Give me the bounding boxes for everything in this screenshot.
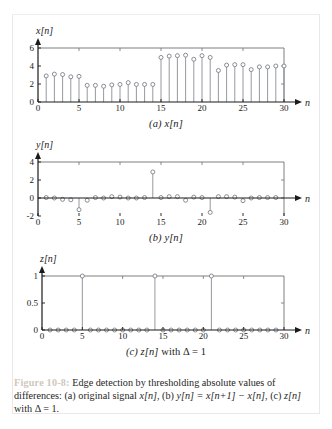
stem-marker [282, 64, 286, 68]
stem-marker [241, 63, 245, 67]
caption-text-3: , (c) [265, 390, 284, 401]
figure-container: 0510152025300246x[n]n (a) x[n] 051015202… [0, 0, 332, 429]
stem-marker [118, 82, 122, 86]
chart-y-n: 051015202530-2024y[n]n [16, 140, 316, 232]
xtick-label: 0 [36, 217, 41, 227]
y-axis-label: x[n] [35, 26, 53, 36]
stem-marker [134, 82, 138, 86]
xtick-label: 25 [239, 331, 249, 341]
stem-marker [167, 54, 171, 58]
stem-marker [52, 72, 56, 76]
stem-marker [184, 198, 188, 202]
stem-marker [77, 208, 81, 212]
ytick-label: 1 [34, 271, 39, 281]
stem-marker [233, 63, 237, 67]
stem-marker [274, 64, 278, 68]
stem-marker [77, 74, 81, 78]
stem-marker [44, 74, 48, 78]
ytick-label: 0 [34, 325, 39, 335]
x-axis-arrow [295, 195, 302, 201]
caption-equation-b: y[n] = x[n+1] − x[n] [177, 390, 266, 401]
x-axis-label: n [305, 325, 310, 336]
caption-text-2: , (b) [157, 390, 177, 401]
xtick-label: 0 [40, 331, 45, 341]
ytick-label: -2 [27, 211, 35, 221]
chart-x-n: 0510152025300246x[n]n [16, 26, 316, 118]
y-axis-label: z[n] [39, 254, 57, 264]
figure-number: Figure 10-8: [14, 377, 70, 388]
stem-marker [143, 82, 147, 86]
y-axis-arrow [35, 152, 41, 159]
plot-b-svg: 051015202530-2024y[n]n [16, 140, 316, 232]
stem-marker [153, 274, 157, 278]
stem-marker [209, 274, 213, 278]
stem-marker [80, 274, 84, 278]
subcaption-b: (b) y[n] [0, 232, 332, 243]
xtick-label: 20 [199, 331, 209, 341]
stem-marker [126, 81, 130, 85]
stem-marker [257, 65, 261, 69]
plot-frame [42, 276, 284, 330]
plot-c-svg: 05101520253000.51z[n]n [16, 254, 316, 346]
figure-page: 0510152025300246x[n]n (a) x[n] 051015202… [0, 0, 332, 429]
caption-text-4: with Δ = 1. [14, 403, 59, 414]
y-axis-arrow [39, 266, 45, 273]
xtick-label: 5 [77, 217, 82, 227]
x-axis-arrow [295, 99, 302, 105]
ytick-label: 0 [30, 97, 35, 107]
xtick-label: 30 [280, 103, 290, 113]
stem-marker [159, 55, 163, 59]
stem-marker [192, 57, 196, 61]
xtick-label: 20 [198, 217, 208, 227]
stem-marker [249, 68, 253, 72]
caption-signal-c: z[n] [284, 390, 301, 401]
stem-marker [200, 54, 204, 58]
stem-marker [85, 83, 89, 87]
ytick-label: 2 [30, 79, 35, 89]
xtick-label: 15 [159, 331, 169, 341]
xtick-label: 20 [198, 103, 208, 113]
plot-a-svg: 0510152025300246x[n]n [16, 26, 316, 118]
stem-marker [225, 63, 229, 67]
stem-marker [102, 84, 106, 88]
subcaption-c: (c) z[n] with Δ = 1 [0, 346, 332, 357]
x-axis-label: n [305, 97, 310, 108]
y-axis-label: y[n] [35, 140, 53, 150]
xtick-label: 10 [116, 217, 126, 227]
xtick-label: 25 [239, 217, 249, 227]
subcaption-a: (a) x[n] [0, 118, 332, 129]
xtick-label: 30 [280, 331, 290, 341]
xtick-label: 0 [36, 103, 41, 113]
stem-marker [208, 55, 212, 59]
stem-marker [61, 73, 65, 77]
xtick-label: 30 [280, 217, 290, 227]
xtick-label: 15 [157, 103, 167, 113]
stem-marker [151, 82, 155, 86]
stem-marker [184, 53, 188, 57]
stem-marker [216, 69, 220, 73]
xtick-label: 10 [116, 103, 126, 113]
stem-marker [69, 75, 73, 79]
xtick-label: 15 [157, 217, 167, 227]
chart-z-n: 05101520253000.51z[n]n [16, 254, 316, 346]
stem-marker [93, 83, 97, 87]
figure-caption: Figure 10-8: Edge detection by threshold… [14, 376, 314, 416]
x-axis-label: n [305, 193, 310, 204]
ytick-label: 4 [30, 157, 35, 167]
stem-marker [151, 170, 155, 174]
stem-marker [208, 210, 212, 214]
stem-marker [241, 199, 245, 203]
plot-frame [38, 162, 284, 216]
xtick-label: 25 [239, 103, 249, 113]
ytick-label: 0.5 [27, 298, 39, 308]
caption-signal-a: x[n] [139, 390, 157, 401]
stem-marker [110, 83, 114, 87]
ytick-label: 4 [30, 61, 35, 71]
ytick-label: 6 [30, 43, 35, 53]
stem-marker [175, 54, 179, 58]
stem-marker [266, 65, 270, 69]
xtick-label: 5 [77, 103, 82, 113]
ytick-label: 2 [30, 175, 35, 185]
y-axis-arrow [35, 38, 41, 45]
stem-marker [85, 198, 89, 202]
